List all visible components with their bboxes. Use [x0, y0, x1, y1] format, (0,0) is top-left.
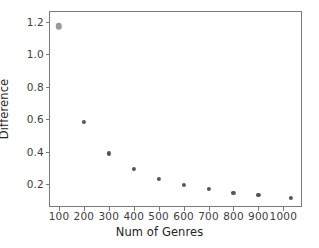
x-tick-label: 900: [248, 211, 269, 222]
y-tick-label: 0.2: [27, 179, 44, 190]
x-tick-label: 300: [98, 211, 119, 222]
x-tick-label: 700: [198, 211, 219, 222]
x-tick-label: 400: [123, 211, 144, 222]
y-tick-mark: [46, 184, 50, 185]
y-tick-label: 1.2: [27, 16, 44, 27]
y-tick-mark: [46, 22, 50, 23]
y-tick-label: 0.8: [27, 81, 44, 92]
x-tick-label: 1000: [270, 211, 298, 222]
y-tick-label: 0.4: [27, 146, 44, 157]
y-tick-mark: [46, 54, 50, 55]
x-tick-label: 200: [74, 211, 95, 222]
y-tick-mark: [46, 152, 50, 153]
scatter-chart-figure: 0.20.40.60.81.01.2 100200300400500600700…: [0, 0, 319, 248]
plot-area: [49, 11, 302, 207]
y-tick-label: 1.0: [27, 49, 44, 60]
y-tick-mark: [46, 119, 50, 120]
x-tick-label: 100: [49, 211, 70, 222]
x-axis-title: Num of Genres: [0, 227, 319, 239]
y-tick-mark: [46, 87, 50, 88]
y-axis-title: Difference: [0, 79, 11, 139]
x-tick-label: 800: [223, 211, 244, 222]
x-tick-label: 500: [148, 211, 169, 222]
x-tick-label: 600: [173, 211, 194, 222]
y-tick-label: 0.6: [27, 114, 44, 125]
